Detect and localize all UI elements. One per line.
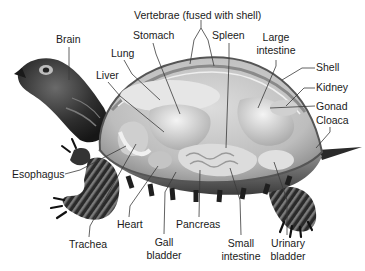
label-urinary-bladder-line1: Urinary [267,237,309,250]
label-gall-bladder-line1: Gall [144,236,184,249]
label-large-intestine-line2: intestine [256,44,296,57]
label-spleen: Spleen [212,29,245,42]
label-urinary-bladder: Urinary bladder [267,237,309,263]
label-liver: Liver [96,69,119,82]
label-esophagus: Esophagus [12,168,65,181]
label-gall-bladder-line2: bladder [144,249,184,262]
label-large-intestine-line1: Large [256,31,296,44]
label-large-intestine: Large intestine [256,31,296,57]
label-gonad: Gonad [316,100,348,113]
label-small-intestine: Small intestine [220,237,262,263]
heart-shape [148,151,172,169]
label-small-intestine-line2: intestine [220,250,262,263]
hind-leg [268,187,316,237]
turtle-anatomy-diagram: Vertebrae (fused with shell) Brain Stoma… [0,0,365,271]
label-lung: Lung [111,47,134,60]
label-brain: Brain [56,33,81,46]
label-pancreas: Pancreas [176,218,220,231]
label-heart: Heart [117,218,143,231]
label-cloaca: Cloaca [316,114,349,127]
tail [318,147,362,160]
label-trachea: Trachea [69,238,107,251]
label-vertebrae: Vertebrae (fused with shell) [134,9,261,22]
label-stomach: Stomach [133,29,174,42]
label-small-intestine-line1: Small [220,237,262,250]
label-kidney: Kidney [316,81,348,94]
label-shell: Shell [316,61,339,74]
label-gall-bladder: Gall bladder [144,236,184,262]
label-urinary-bladder-line2: bladder [267,250,309,263]
